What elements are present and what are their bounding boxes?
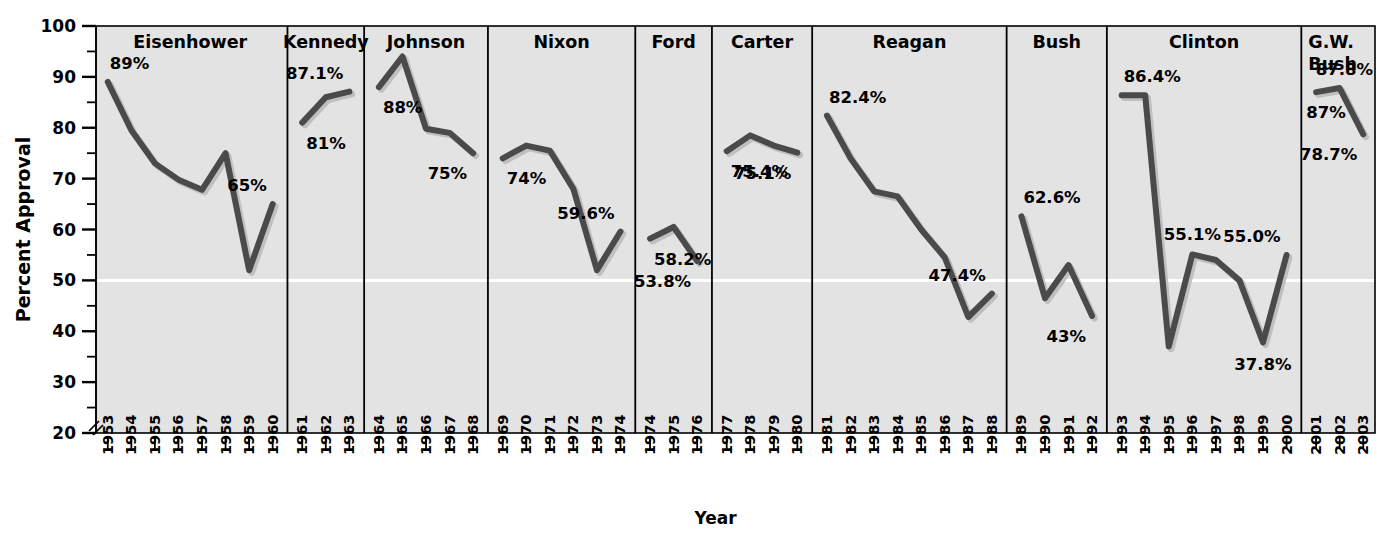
panel-title-bush: Bush — [1032, 32, 1081, 52]
x-axis-tick-label: 1999 — [1255, 415, 1271, 455]
x-axis-tick-label: 1972 — [565, 415, 581, 455]
x-axis-tick-label: 1967 — [442, 415, 458, 455]
x-axis-tick-label: 1979 — [766, 415, 782, 455]
x-axis-tick-label: 1977 — [719, 415, 735, 455]
data-value-label: 62.6% — [1023, 188, 1081, 207]
panel-title-reagan: Reagan — [872, 32, 946, 52]
x-axis-tick-label: 1992 — [1084, 415, 1100, 455]
presidential-approval-chart: 2030405060708090100Percent ApprovalEisen… — [0, 0, 1383, 533]
x-axis-tick-label: 2000 — [1279, 415, 1295, 455]
x-axis-tick-label: 1981 — [819, 415, 835, 455]
x-axis-tick-label: 1976 — [689, 415, 705, 455]
x-axis-tick-label: 1974 — [642, 415, 658, 455]
x-axis-tick-label: 1996 — [1184, 415, 1200, 455]
x-axis-tick-label: 1962 — [318, 415, 334, 455]
x-axis-tick-label: 1980 — [789, 415, 805, 455]
x-axis-tick-label: 1991 — [1061, 415, 1077, 455]
x-axis-tick-label: 1983 — [866, 415, 882, 455]
panel-title-johnson: Johnson — [386, 32, 465, 52]
data-value-label: 87% — [1306, 103, 1346, 122]
data-value-label: 81% — [306, 134, 346, 153]
data-value-label: 89% — [110, 54, 150, 73]
x-axis-tick-label: 1960 — [265, 415, 281, 455]
x-axis-tick-label: 2001 — [1308, 415, 1324, 455]
panel-title-eisenhower: Eisenhower — [133, 32, 247, 52]
x-axis-tick-label: 1971 — [542, 415, 558, 455]
data-value-label: 59.6% — [557, 204, 615, 223]
y-axis-tick-label: 40 — [52, 321, 76, 341]
x-axis-tick-label: 1985 — [913, 415, 929, 455]
y-axis-title: Percent Approval — [12, 137, 34, 323]
x-axis-tick-label: 1969 — [495, 415, 511, 455]
x-axis-tick-label: 1965 — [394, 415, 410, 455]
data-value-label: 75% — [428, 164, 468, 183]
data-value-label: 58.2% — [654, 250, 712, 269]
data-value-label: 65% — [227, 176, 267, 195]
y-axis-tick-label: 60 — [52, 220, 76, 240]
panel-title-clinton: Clinton — [1169, 32, 1239, 52]
data-value-label: 87.8% — [1316, 60, 1374, 79]
data-value-label: 47.4% — [929, 266, 987, 285]
data-value-label: 55.1% — [1164, 225, 1222, 244]
data-value-label: 74% — [507, 169, 547, 188]
data-value-label: 37.8% — [1234, 355, 1292, 374]
data-value-label: 88% — [383, 98, 423, 117]
x-axis-tick-label: 1973 — [589, 415, 605, 455]
x-axis-tick-label: 1998 — [1231, 415, 1247, 455]
x-axis-tick-label: 1961 — [294, 415, 310, 455]
data-value-label: 53.8% — [634, 272, 692, 291]
x-axis-tick-label: 1963 — [341, 415, 357, 455]
data-value-label: 82.4% — [829, 88, 887, 107]
data-value-label: 75.1% — [734, 164, 792, 183]
x-axis-tick-label: 1975 — [666, 415, 682, 455]
data-value-label: 43% — [1047, 327, 1087, 346]
x-axis-tick-label: 1995 — [1161, 415, 1177, 455]
data-value-label: 78.7% — [1300, 145, 1358, 164]
x-axis-tick-label: 1974 — [612, 415, 628, 455]
x-axis-tick-label: 2003 — [1355, 415, 1371, 455]
y-axis-tick-label: 70 — [52, 169, 76, 189]
data-value-label: 86.4% — [1124, 67, 1182, 86]
x-axis-tick-label: 1955 — [147, 415, 163, 455]
x-axis-tick-label: 1984 — [890, 415, 906, 455]
x-axis-tick-label: 1989 — [1013, 415, 1029, 455]
chart-canvas: 2030405060708090100Percent ApprovalEisen… — [0, 0, 1383, 533]
x-axis-tick-label: 1958 — [218, 415, 234, 455]
x-axis-tick-label: 1968 — [465, 415, 481, 455]
x-axis-tick-label: 1982 — [843, 415, 859, 455]
y-axis-tick-label: 90 — [52, 67, 76, 87]
x-axis-tick-label: 1956 — [170, 415, 186, 455]
x-axis-tick-label: 1993 — [1114, 415, 1130, 455]
x-axis-tick-label: 1997 — [1208, 415, 1224, 455]
y-axis-tick-label: 80 — [52, 118, 76, 138]
panel-title-ford: Ford — [651, 32, 695, 52]
x-axis-tick-label: 1990 — [1037, 415, 1053, 455]
x-axis-tick-label: 1957 — [194, 415, 210, 455]
x-axis-tick-label: 1988 — [984, 415, 1000, 455]
x-axis-tick-label: 1953 — [100, 415, 116, 455]
panel-title-nixon: Nixon — [533, 32, 589, 52]
y-axis-tick-label: 30 — [52, 372, 76, 392]
y-axis-tick-label: 20 — [52, 423, 76, 443]
x-axis-tick-label: 1966 — [418, 415, 434, 455]
panel-title-carter: Carter — [731, 32, 794, 52]
x-axis-tick-label: 1954 — [123, 415, 139, 455]
x-axis-tick-label: 1964 — [371, 415, 387, 455]
data-value-label: 87.1% — [286, 64, 344, 83]
y-axis-tick-label: 100 — [41, 16, 77, 36]
x-axis-tick-label: 1986 — [937, 415, 953, 455]
y-axis-tick-label: 50 — [52, 270, 76, 290]
x-axis-tick-label: 1959 — [241, 415, 257, 455]
x-axis-title: Year — [693, 508, 737, 528]
panel-title-g-w-bush: G.W. — [1308, 32, 1354, 52]
x-axis-tick-label: 1978 — [742, 415, 758, 455]
panel-title-kennedy: Kennedy — [283, 32, 369, 52]
x-axis-tick-label: 1987 — [960, 415, 976, 455]
x-axis-tick-label: 1970 — [518, 415, 534, 455]
x-axis-tick-label: 2002 — [1332, 415, 1348, 455]
data-value-label: 55.0% — [1223, 227, 1281, 246]
x-axis-tick-label: 1994 — [1137, 415, 1153, 455]
